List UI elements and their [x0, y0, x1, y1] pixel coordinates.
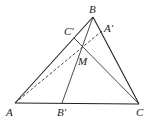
cevian-aa-prime-dashed — [15, 31, 102, 103]
label-a-prime: A' — [103, 22, 114, 34]
label-b: B — [89, 3, 96, 15]
label-c: C — [136, 106, 144, 118]
label-c-prime: C' — [64, 25, 74, 37]
side-bc — [93, 17, 139, 104]
label-b-prime: B' — [57, 106, 67, 118]
side-ac — [15, 103, 139, 104]
label-a: A — [5, 106, 13, 118]
cevian-cc-prime — [74, 38, 139, 104]
label-m: M — [77, 55, 88, 67]
triangle-cevians-diagram: A B C A' B' C' M — [0, 0, 150, 132]
